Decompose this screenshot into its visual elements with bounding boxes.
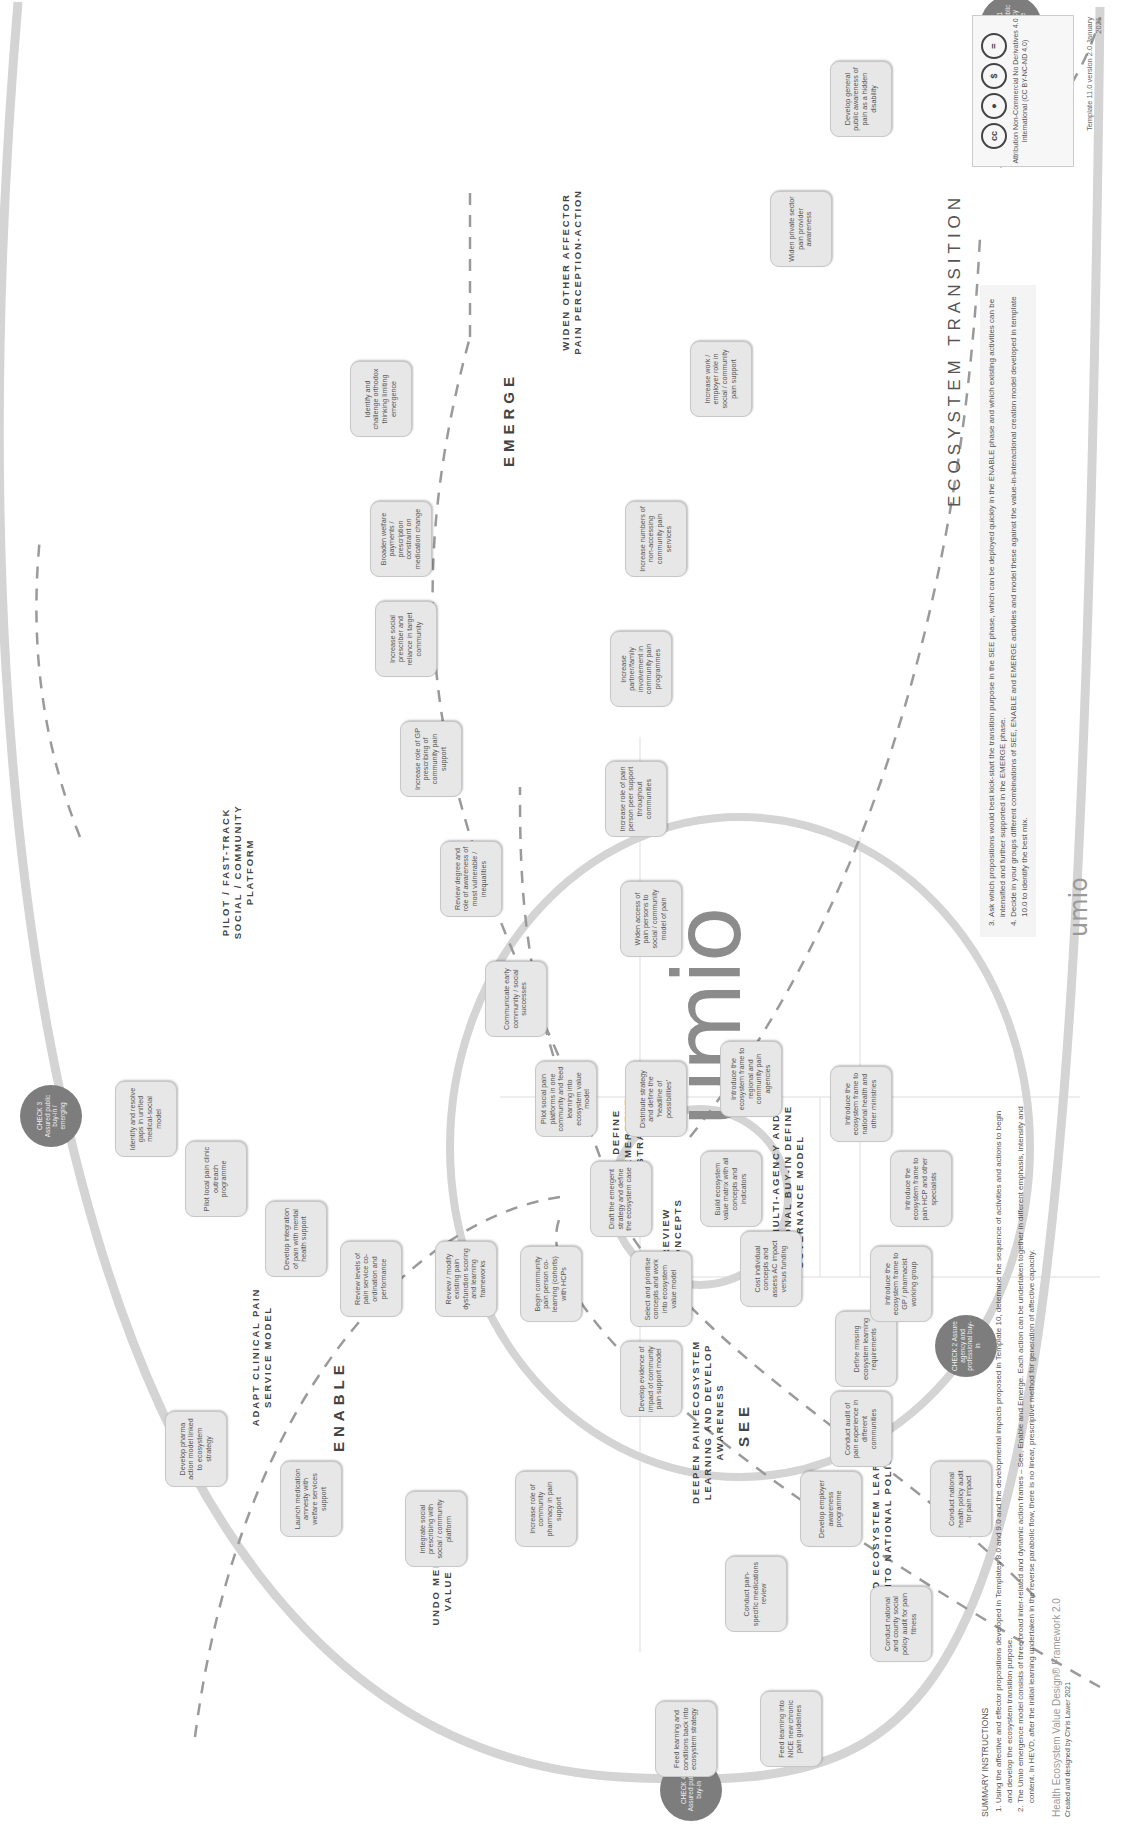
node-see-outer-0[interactable]: Feed learning into NICE new chronic pain… bbox=[760, 1691, 822, 1767]
node-center-1[interactable]: Draft the emergent strategy and define t… bbox=[590, 1161, 652, 1237]
node-center-0[interactable]: Select and prioritise concepts and work … bbox=[630, 1251, 692, 1327]
diagram-page: SEE ENABLE EMERGE DEEPEN PAIN ECOSYSTEM … bbox=[0, 0, 1129, 1837]
node-see-inner-1[interactable]: Conduct pain-specific medications review bbox=[725, 1556, 787, 1632]
instruction-2: The Umio emergence model consists of thr… bbox=[1015, 1097, 1037, 1803]
instruction-4: Decide in your groups different combinat… bbox=[1008, 291, 1030, 917]
node-adapt-4[interactable]: Review / modify existing pain dysfunctio… bbox=[435, 1241, 497, 1317]
node-enable-a-1[interactable]: Launch medication amnesty with welfare s… bbox=[280, 1461, 342, 1537]
node-adapt-5[interactable]: Begin community pain person co-learning … bbox=[520, 1246, 582, 1322]
section-deepen: DEEPEN PAIN ECOSYSTEM LEARNING AND DEVEL… bbox=[690, 1337, 726, 1507]
framework-name: Health Ecosystem Value Design® Framework… bbox=[1051, 1097, 1062, 1817]
license-text: Attribution Non-Commercial No Derivative… bbox=[1011, 16, 1029, 166]
non-commercial-icon: $ bbox=[981, 63, 1007, 89]
section-pilot: PILOT / FAST-TRACK SOCIAL / COMMUNITY PL… bbox=[220, 787, 256, 957]
no-derivatives-icon: = bbox=[981, 33, 1007, 59]
node-gov-1[interactable]: Introduce the ecosystem frame to nationa… bbox=[830, 1066, 892, 1142]
node-enable-b-1[interactable]: Increase role of community pharmacy in p… bbox=[515, 1471, 577, 1547]
node-widen-2[interactable]: Increase partner/family involvement in c… bbox=[610, 631, 672, 707]
node-pilot-5[interactable]: Broaden welfare payments / prescription … bbox=[370, 501, 432, 577]
node-pilot-4[interactable]: Increase social prescriber and reliance … bbox=[375, 601, 437, 677]
summary-instructions-cont: Ask which propositions would best kick-s… bbox=[980, 285, 1036, 937]
node-adapt-0[interactable]: Identify and resolve gaps in unified med… bbox=[115, 1081, 177, 1157]
cc-license: cc ● $ = Attribution Non-Commercial No D… bbox=[972, 15, 1074, 167]
check-circle-enable: CHECK 3 Assured public buy-in / emerging bbox=[20, 1085, 82, 1147]
instruction-1: Using the affective and effector proposi… bbox=[993, 1097, 1015, 1803]
node-pilot-2[interactable]: Review degree and role of awareness of m… bbox=[440, 841, 502, 917]
node-enable-a-0[interactable]: Develop pharma action model linked to ec… bbox=[165, 1411, 227, 1487]
framework-credit: Created and designed by Chris Lawer 2021 bbox=[1062, 1097, 1073, 1817]
node-pilot-3[interactable]: Increase role of GP prescribing of commu… bbox=[400, 721, 462, 797]
cc-icon: cc bbox=[981, 123, 1007, 149]
section-adapt: ADAPT CLINICAL PAIN SERVICE MODEL bbox=[250, 1277, 274, 1437]
node-gov-2[interactable]: Introduce the ecosystem frame to pain HC… bbox=[890, 1151, 952, 1227]
node-see-inner-4[interactable]: Define missing ecosystem learning requir… bbox=[835, 1311, 897, 1387]
instruction-3: Ask which propositions would best kick-s… bbox=[986, 291, 1008, 917]
node-widen-0[interactable]: Widen access of pain persons to social /… bbox=[620, 881, 682, 957]
node-center-4[interactable]: Cost individual concepts and assess AC i… bbox=[740, 1231, 802, 1307]
summary-instructions: SUMMARY INSTRUCTIONS Using the affective… bbox=[980, 1097, 1073, 1817]
node-gov-0[interactable]: Introduce the ecosystem frame to regiona… bbox=[720, 1041, 782, 1117]
instructions-title: SUMMARY INSTRUCTIONS bbox=[980, 1097, 991, 1817]
node-adapt-2[interactable]: Develop integration of pain with mental … bbox=[265, 1201, 327, 1277]
phase-enable: ENABLE bbox=[330, 1360, 347, 1452]
node-pilot-0[interactable]: Pilot social pain platforms in one commu… bbox=[535, 1061, 597, 1137]
node-see-outer-1[interactable]: Conduct national and county social polic… bbox=[870, 1586, 932, 1662]
node-center-2[interactable]: Distribute strategy and define the 'head… bbox=[625, 1061, 687, 1137]
node-widen-6[interactable]: Develop general public awareness of pain… bbox=[830, 61, 892, 137]
footer: SUMMARY INSTRUCTIONS Using the affective… bbox=[960, 0, 1129, 1837]
node-center-3[interactable]: Build ecosystem value matrix with all co… bbox=[700, 1151, 762, 1227]
section-widen: WIDEN OTHER AFFECTOR PAIN PERCEPTION-ACT… bbox=[560, 187, 584, 357]
node-see-inner-2[interactable]: Develop employer awareness programme bbox=[800, 1471, 862, 1547]
node-pilot-6[interactable]: Identify and challenge orthodox thinking… bbox=[350, 361, 412, 437]
attribution-icon: ● bbox=[981, 93, 1007, 119]
node-adapt-3[interactable]: Review levels of pain service co-ordinat… bbox=[340, 1241, 402, 1317]
node-pilot-1[interactable]: Communicate early community / social suc… bbox=[485, 961, 547, 1037]
node-see-inner-3[interactable]: Conduct audit of pain experience in diff… bbox=[830, 1391, 892, 1467]
node-widen-4[interactable]: Increase work / employer role in social … bbox=[690, 341, 752, 417]
node-enable-b-2[interactable]: Develop evidence of impact of community … bbox=[620, 1341, 682, 1417]
node-widen-5[interactable]: Widen private sector pain provider aware… bbox=[770, 191, 832, 267]
node-see-inner-0[interactable]: Feed learning and conditions back into e… bbox=[655, 1701, 717, 1777]
footer-umio-logo: umio bbox=[1065, 877, 1093, 937]
node-widen-1[interactable]: Increase role of pain person peer suppor… bbox=[605, 761, 667, 837]
node-adapt-1[interactable]: Pilot local pain clinic outreach program… bbox=[185, 1141, 247, 1217]
node-widen-3[interactable]: Increase numbers of non-accessing commun… bbox=[625, 501, 687, 577]
node-gov-3[interactable]: Introduce the ecosystem frame to GP / ph… bbox=[870, 1246, 932, 1322]
phase-see: SEE bbox=[735, 1402, 752, 1447]
node-enable-b-0[interactable]: Integrate social prescribing with social… bbox=[405, 1491, 467, 1567]
version-label: Template 11.0 version 2.0 January 2021 bbox=[1085, 17, 1103, 147]
phase-emerge: EMERGE bbox=[500, 372, 517, 467]
